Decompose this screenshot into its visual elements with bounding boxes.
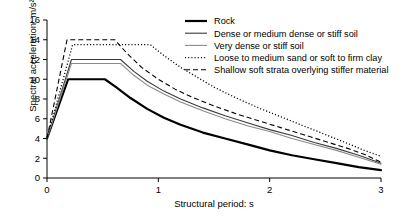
x-axis-ticks: 0123: [44, 178, 383, 195]
legend-label-3: Loose to medium sand or soft to firm cla…: [214, 53, 382, 63]
legend-label-4: Shallow soft strata overlying stiffer ma…: [214, 65, 388, 75]
spectral-acceleration-chart: 0246810121416 0123 RockDense or medium d…: [0, 0, 407, 219]
y-tick-label: 0: [35, 172, 40, 183]
x-tick-label: 2: [267, 184, 272, 195]
series-line-0: [47, 79, 381, 170]
legend-label-2: Very dense or stiff soil: [214, 41, 304, 51]
y-axis-label: Spectral acceleration: m/s²: [27, 0, 38, 136]
legend-label-0: Rock: [214, 16, 235, 26]
y-tick-label: 2: [35, 153, 40, 164]
chart-legend: RockDense or medium dense or stiff soilV…: [185, 16, 388, 75]
chart-canvas: 0246810121416 0123 RockDense or medium d…: [0, 0, 407, 219]
x-tick-label: 1: [156, 184, 161, 195]
legend-label-1: Dense or medium dense or stiff soil: [214, 29, 358, 39]
x-tick-label: 0: [44, 184, 49, 195]
x-axis-label: Structural period: s: [47, 198, 381, 209]
x-tick-label: 3: [378, 184, 383, 195]
